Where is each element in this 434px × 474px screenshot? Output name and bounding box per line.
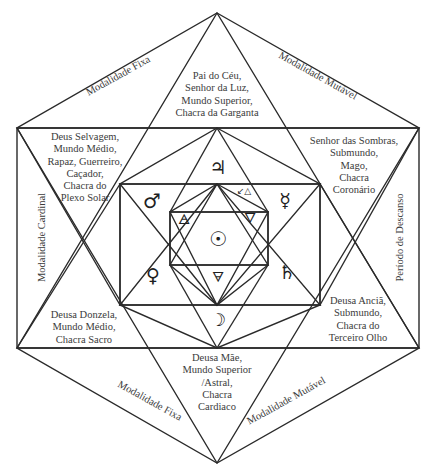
edge-label-right: Período de Descanso — [394, 178, 405, 298]
sun-icon: ☉ — [209, 229, 227, 249]
mars-icon: ♂ — [143, 191, 161, 211]
fire-element-arrow-icon: ↙△ — [237, 187, 251, 196]
region-upper-left-label: Deus Selvagem, Mundo Médio, Rapaz, Guerr… — [30, 131, 140, 205]
region-top-label: Pai do Céu, Senhor da Luz, Mundo Superio… — [158, 70, 276, 119]
moon-icon: ☽ — [210, 311, 226, 329]
water-element-icon: 🜄 — [244, 211, 256, 225]
edge-label-left: Modalidade Cardinal — [36, 178, 47, 298]
region-lower-right-label: Deusa Anciã, Submundo, Chacra do Terceir… — [308, 295, 408, 344]
venus-icon: ♀ — [146, 266, 160, 285]
saturn-icon: ♄ — [278, 263, 295, 282]
region-bottom-label: Deusa Mãe, Mundo Superior /Astral, Chacr… — [170, 352, 264, 413]
earth-element-icon: 🜃 — [212, 270, 224, 284]
region-lower-left-label: Deusa Donzela, Mundo Médio, Chacra Sacro — [38, 309, 130, 346]
jupiter-icon: ♃ — [209, 158, 226, 177]
mercury-icon: ☿ — [279, 191, 291, 210]
hexagram-diagram: Pai do Céu, Senhor da Luz, Mundo Superio… — [0, 0, 434, 474]
air-element-icon: 🜁 — [178, 212, 190, 226]
